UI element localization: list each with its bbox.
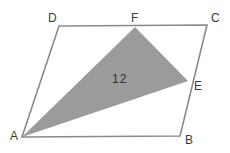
geometry-figure: A B C D E F 12 [0, 0, 230, 153]
vertex-label-c: C [211, 12, 220, 24]
vertex-label-b: B [185, 134, 193, 146]
vertex-label-f: F [131, 12, 138, 24]
vertex-label-d: D [48, 12, 57, 24]
vertex-label-a: A [10, 130, 18, 142]
vertex-label-e: E [194, 80, 202, 92]
shaded-triangle-AFE [22, 27, 188, 137]
triangle-area-label: 12 [112, 73, 127, 85]
